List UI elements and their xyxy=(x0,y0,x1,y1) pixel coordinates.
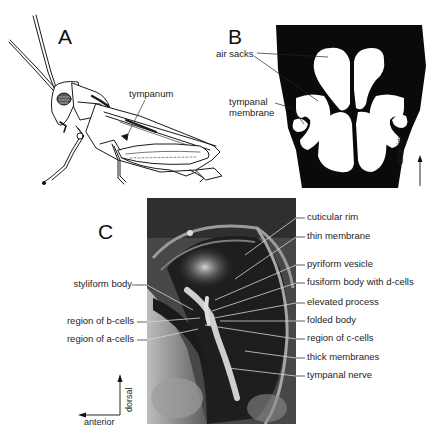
label-region-of-c-cells: region of c-cells xyxy=(307,333,374,344)
label-thin-membrane: thin membrane xyxy=(307,231,370,242)
label-fusiform-body-with-d-cells: fusiform body with d-cells xyxy=(307,277,414,288)
label-anterior-c: anterior xyxy=(84,417,115,427)
label-cuticular-rim: cuticular rim xyxy=(307,212,358,223)
label-folded-body: folded body xyxy=(307,315,356,326)
label-dorsal: dorsal xyxy=(124,387,134,412)
label-elevated-process: elevated process xyxy=(307,297,379,308)
label-region-of-b-cells: region of b-cells xyxy=(48,316,134,327)
label-styliform-body: styliform body xyxy=(62,279,132,290)
label-region-of-a-cells: region of a-cells xyxy=(48,334,134,345)
label-pyriform-vesicle: pyriform vesicle xyxy=(307,259,373,270)
label-thick-membranes: thick membranes xyxy=(307,352,379,363)
label-tympanal-nerve: tympanal nerve xyxy=(307,370,372,381)
